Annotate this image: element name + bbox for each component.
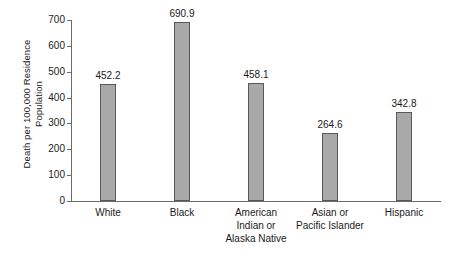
bar	[174, 22, 190, 201]
y-axis-tick-label: 300	[25, 118, 65, 128]
y-axis-tick-label: 600	[25, 41, 65, 51]
bar-value-label: 690.9	[152, 9, 212, 19]
y-axis-tick-label: 0	[25, 196, 65, 206]
x-axis-line	[71, 201, 441, 202]
y-axis-tick	[67, 201, 71, 202]
bar-value-label: 342.8	[374, 99, 434, 109]
y-axis-tick	[67, 72, 71, 73]
bar	[396, 112, 412, 201]
y-axis-tick-label: 500	[25, 67, 65, 77]
x-axis-category-label-line: Alaska Native	[210, 232, 302, 245]
y-axis-tick-label: 100	[25, 170, 65, 180]
bar	[100, 84, 116, 201]
bar	[322, 133, 338, 201]
y-axis-tick	[67, 149, 71, 150]
bar-value-label: 458.1	[226, 70, 286, 80]
x-axis-category-label: Hispanic	[358, 206, 450, 219]
y-axis-tick	[67, 20, 71, 21]
y-axis-tick	[67, 175, 71, 176]
y-axis-tick-label: 200	[25, 144, 65, 154]
bar-chart: Death per 100,000 Residence Population 0…	[0, 0, 451, 256]
bar-value-label: 264.6	[300, 120, 360, 130]
x-axis-category-label-line: Hispanic	[358, 206, 450, 219]
y-axis-tick	[67, 98, 71, 99]
x-axis-category-label-line: Pacific Islander	[284, 219, 376, 232]
y-axis-tick	[67, 46, 71, 47]
y-axis-tick-label: 700	[25, 15, 65, 25]
bar	[248, 83, 264, 201]
y-axis-tick	[67, 123, 71, 124]
bar-value-label: 452.2	[78, 71, 138, 81]
y-axis-tick-label: 400	[25, 93, 65, 103]
y-axis-line	[71, 20, 72, 202]
